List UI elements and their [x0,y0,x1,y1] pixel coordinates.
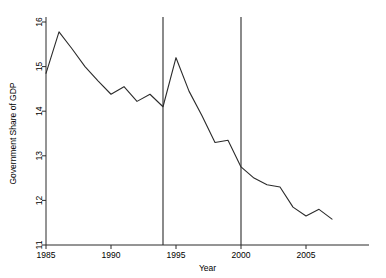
x-tick-label: 1985 [37,250,56,260]
y-tick-label: 13 [34,151,44,161]
y-tick-label: 12 [34,195,44,205]
y-tick-label: 15 [34,62,44,72]
x-axis-title: Year [199,263,216,273]
x-axis-ticks: 19851990199520002005 [37,245,316,260]
y-axis-ticks: 111213141516 [34,17,46,249]
line-chart: 11121314151619851990199520002005YearGove… [0,0,386,278]
x-tick-label: 1995 [167,250,186,260]
y-tick-label: 16 [34,17,44,27]
y-axis-title: Government Share of GDP [8,82,18,184]
x-tick-label: 1990 [102,250,121,260]
x-tick-label: 2000 [232,250,251,260]
y-tick-label: 14 [34,106,44,116]
chart-figure: 11121314151619851990199520002005YearGove… [0,0,386,278]
data-series-line [46,32,332,219]
x-tick-label: 2005 [297,250,316,260]
vertical-reference-lines [163,17,241,245]
y-tick-label: 11 [34,240,44,249]
